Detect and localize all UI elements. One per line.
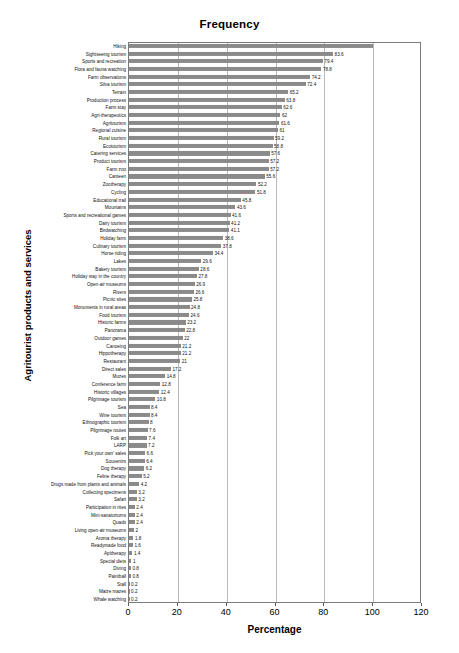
bar-row[interactable]: Paintball0.8	[0, 572, 459, 580]
bar-row[interactable]: Rural tourism59.2	[0, 134, 459, 142]
bar[interactable]	[129, 174, 265, 178]
bar-row[interactable]: Regional cuisine61	[0, 127, 459, 135]
bar-row[interactable]: Canoeing21.2	[0, 342, 459, 350]
bar-row[interactable]: Wine tourism8.4	[0, 411, 459, 419]
bar-row[interactable]: Mountains43.6	[0, 203, 459, 211]
bar-row[interactable]: Ethnographic tourism8	[0, 419, 459, 427]
bar[interactable]	[129, 267, 199, 271]
bar-row[interactable]: Dog therapy6.2	[0, 465, 459, 473]
bar-row[interactable]: Sea8.4	[0, 403, 459, 411]
bar-row[interactable]: Historic farms23.2	[0, 319, 459, 327]
bar-row[interactable]: Participation in rites2.4	[0, 503, 459, 511]
bar[interactable]	[129, 482, 139, 486]
bar[interactable]	[129, 474, 142, 478]
bar-row[interactable]: Whale watching0.2	[0, 595, 459, 603]
bar-row[interactable]: Mini-sanatoriums2.4	[0, 511, 459, 519]
bar-row[interactable]: Holiday farm38.6	[0, 234, 459, 242]
bar-row[interactable]: Feline therapy5.2	[0, 472, 459, 480]
bar-row[interactable]: Terrain65.2	[0, 88, 459, 96]
bar-row[interactable]: Silva tourism72.4	[0, 80, 459, 88]
bar[interactable]	[129, 497, 137, 501]
bar-row[interactable]: Muzes14.8	[0, 372, 459, 380]
bar[interactable]	[129, 336, 183, 340]
bar[interactable]	[129, 90, 288, 94]
bar[interactable]	[129, 397, 155, 401]
bar-row[interactable]: Collecting specimens3.2	[0, 488, 459, 496]
bar[interactable]	[129, 236, 223, 240]
bar-row[interactable]: Restaurant21	[0, 357, 459, 365]
bar-row[interactable]: Birdwatching41.1	[0, 226, 459, 234]
bar[interactable]	[129, 67, 321, 71]
bar[interactable]	[129, 459, 145, 463]
bar[interactable]	[129, 305, 190, 309]
bar-row[interactable]: Safari3.2	[0, 495, 459, 503]
bar[interactable]	[129, 451, 145, 455]
bar[interactable]	[129, 244, 221, 248]
bar-row[interactable]: Agritourism61.6	[0, 119, 459, 127]
bar-row[interactable]: Catering services57.6	[0, 150, 459, 158]
bar[interactable]	[129, 413, 150, 417]
bar-row[interactable]: Folk art7.4	[0, 434, 459, 442]
bar-row[interactable]: Monuments in rural areas24.8	[0, 303, 459, 311]
bar-row[interactable]: Ecotourism58.8	[0, 142, 459, 150]
bar-row[interactable]: Stall0.2	[0, 580, 459, 588]
bar[interactable]	[129, 98, 285, 102]
bar[interactable]	[129, 428, 148, 432]
bar-row[interactable]: Canteen55.6	[0, 173, 459, 181]
bar[interactable]	[129, 443, 147, 447]
bar-row[interactable]: Open-air museums26.9	[0, 280, 459, 288]
bar[interactable]	[129, 367, 171, 371]
bar[interactable]	[129, 159, 269, 163]
bar-row[interactable]: Lakes29.6	[0, 257, 459, 265]
bar-row[interactable]: Hippotherapy21.2	[0, 349, 459, 357]
bar[interactable]	[129, 274, 197, 278]
bar[interactable]	[129, 390, 159, 394]
bar[interactable]	[129, 297, 192, 301]
bar-row[interactable]: Cycling51.8	[0, 188, 459, 196]
bar[interactable]	[129, 105, 282, 109]
bar[interactable]	[129, 213, 231, 217]
bar[interactable]	[129, 343, 181, 347]
bar[interactable]	[129, 282, 195, 286]
bar-row[interactable]: Dairy tourism41.2	[0, 219, 459, 227]
bar-row[interactable]: Living open-air museums2	[0, 526, 459, 534]
bar-row[interactable]: Historic villages12.4	[0, 388, 459, 396]
bar-row[interactable]: Direct sales17.2	[0, 365, 459, 373]
bar[interactable]	[129, 144, 273, 148]
bar-row[interactable]: Educational trail45.8	[0, 196, 459, 204]
bar[interactable]	[129, 221, 230, 225]
bar-row[interactable]: Product tourism57.2	[0, 157, 459, 165]
bar[interactable]	[129, 328, 185, 332]
bar[interactable]	[129, 228, 229, 232]
bar[interactable]	[129, 113, 280, 117]
bar-row[interactable]: Apitherapy1.4	[0, 549, 459, 557]
bar-row[interactable]: Picnic sites25.8	[0, 296, 459, 304]
bar-row[interactable]: Culinary tourism37.8	[0, 242, 459, 250]
bar[interactable]	[129, 82, 306, 86]
bar[interactable]	[129, 197, 241, 201]
bar[interactable]	[129, 436, 147, 440]
bar-row[interactable]: Flora and fauna watching78.8	[0, 65, 459, 73]
bar-row[interactable]: Conference farm12.8	[0, 380, 459, 388]
bar[interactable]	[129, 75, 310, 79]
bar[interactable]	[129, 405, 150, 409]
bar[interactable]	[129, 290, 194, 294]
bar[interactable]	[129, 151, 270, 155]
bar-row[interactable]: Souvenirs6.4	[0, 457, 459, 465]
bar-row[interactable]: Food tourism24.6	[0, 311, 459, 319]
bar[interactable]	[129, 44, 373, 48]
bar-row[interactable]: LARP7.2	[0, 442, 459, 450]
bar[interactable]	[129, 205, 235, 209]
bar-row[interactable]: Hiking	[0, 42, 459, 50]
bar[interactable]	[129, 59, 323, 63]
bar[interactable]	[129, 121, 279, 125]
bar-row[interactable]: Drugs made from plants and animals4.2	[0, 480, 459, 488]
bar[interactable]	[129, 420, 149, 424]
bar-row[interactable]: Sports and recreation79.4	[0, 57, 459, 65]
bar[interactable]	[129, 490, 137, 494]
bar[interactable]	[129, 251, 213, 255]
bar-row[interactable]: Readymade food1.6	[0, 542, 459, 550]
bar-row[interactable]: Zootherapy52.2	[0, 180, 459, 188]
bar[interactable]	[129, 190, 255, 194]
bar[interactable]	[129, 259, 201, 263]
